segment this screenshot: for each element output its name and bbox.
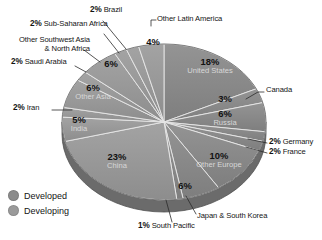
label-iran-pct: 2% xyxy=(13,103,25,112)
slice-label-other-asia: 6% Other Asia xyxy=(66,84,120,102)
label-germany-pct: 2% xyxy=(269,137,281,146)
legend: Developed Developing xyxy=(8,188,69,218)
label-japan-south-korea: Japan & South Korea xyxy=(197,212,267,221)
label-saudi-arabia: 2% Saudi Arabia xyxy=(11,58,67,67)
label-brazil-name: Brazil xyxy=(104,5,122,14)
label-brazil: 2% Brazil xyxy=(90,6,122,15)
label-south-pacific-name: South Pacific xyxy=(152,221,195,230)
slice-label-russia: 6% Russia xyxy=(206,110,244,128)
legend-swatch-developed-icon xyxy=(8,190,19,201)
label-france-name: France xyxy=(283,147,306,156)
slice-label-united-states: 18% United States xyxy=(182,58,238,76)
label-france-pct: 2% xyxy=(269,147,281,156)
label-germany: 2% Germany xyxy=(269,138,313,147)
label-other-latin-america-name: Other Latin America xyxy=(157,14,222,23)
label-iran-name: Iran xyxy=(27,103,40,112)
label-other-southwest-asia-north-africa: Other Southwest Asia & North Africa xyxy=(8,36,90,53)
label-other-latin-america: Other Latin America xyxy=(157,15,222,24)
label-saudi-arabia-pct: 2% xyxy=(11,57,23,66)
label-saudi-arabia-name: Saudi Arabia xyxy=(25,57,67,66)
slice-label-other-southwest-asia-pct-box: 6% xyxy=(98,60,124,69)
slice-label-china: 23% China xyxy=(96,153,138,171)
slice-label-other-europe-name: Other Europe xyxy=(188,161,250,170)
label-canada: Canada xyxy=(266,86,292,95)
slice-label-other-europe: 10% Other Europe xyxy=(188,152,250,170)
label-france: 2% France xyxy=(269,148,306,157)
slice-label-other-latin-america-pct: 4% xyxy=(140,38,166,47)
slice-label-united-states-name: United States xyxy=(182,67,238,76)
slice-label-canada-pct-box: 3% xyxy=(212,95,238,104)
slice-label-other-asia-name: Other Asia xyxy=(66,93,120,102)
slice-label-india-name: India xyxy=(62,125,96,134)
pie-chart-figure: 2% Brazil 2% Sub-Saharan Africa Other So… xyxy=(0,0,322,240)
leader-saudi-arabia xyxy=(75,66,86,72)
slice-label-japan-south-korea-pct: 6% xyxy=(172,182,198,191)
slice-label-india: 5% India xyxy=(62,116,96,134)
legend-label-developing: Developing xyxy=(24,206,69,216)
label-iran: 2% Iran xyxy=(13,104,39,113)
label-brazil-pct: 2% xyxy=(90,5,102,14)
label-sub-saharan-africa-name: Sub-Saharan Africa xyxy=(44,19,108,28)
label-sub-saharan-africa-pct: 2% xyxy=(30,19,42,28)
legend-swatch-developing-icon xyxy=(8,205,19,216)
label-sub-saharan-africa: 2% Sub-Saharan Africa xyxy=(30,20,108,29)
slice-label-other-southwest-asia-pct: 6% xyxy=(98,60,124,69)
slice-label-japan-south-korea-pct-box: 6% xyxy=(172,182,198,191)
label-other-southwest-asia-line2: & North Africa xyxy=(45,44,90,53)
label-japan-south-korea-name: Japan & South Korea xyxy=(197,211,267,220)
slice-label-canada-pct: 3% xyxy=(212,95,238,104)
leader-sub-saharan-africa xyxy=(104,34,119,53)
label-canada-name: Canada xyxy=(266,85,292,94)
legend-label-developed: Developed xyxy=(24,191,67,201)
label-south-pacific: 1% South Pacific xyxy=(138,222,195,231)
slice-label-china-name: China xyxy=(96,162,138,171)
legend-item-developing[interactable]: Developing xyxy=(8,203,69,218)
slice-label-russia-name: Russia xyxy=(206,119,244,128)
slice-label-other-latin-america-pct-box: 4% xyxy=(140,38,166,47)
label-germany-name: Germany xyxy=(283,137,314,146)
label-south-pacific-pct: 1% xyxy=(138,221,150,230)
leader-other-latin-america xyxy=(151,20,156,26)
legend-item-developed[interactable]: Developed xyxy=(8,188,69,203)
